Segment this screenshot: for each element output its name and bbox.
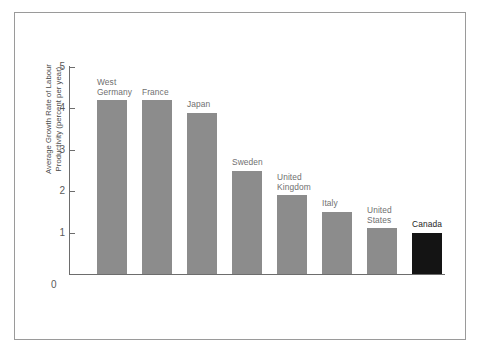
bar [142, 100, 172, 274]
bar [277, 195, 307, 274]
y-tick-label: 4 [51, 102, 65, 113]
bar-group: Canada [412, 233, 442, 274]
bar [187, 113, 217, 274]
bar-label: Japan [187, 100, 210, 110]
bar-label: Canada [412, 220, 442, 230]
bar [232, 171, 262, 275]
bar-label: Italy [322, 199, 338, 209]
y-tick-label: 2 [51, 185, 65, 196]
bar-group: United Kingdom [277, 195, 307, 274]
bar-group: Japan [187, 113, 217, 274]
bar-group: Sweden [232, 171, 262, 275]
bar-label: United States [367, 206, 392, 225]
y-tick-label-0: 0 [51, 279, 57, 290]
y-tick-label: 1 [51, 227, 65, 238]
bar [97, 100, 127, 274]
bar-group: Italy [322, 212, 352, 274]
bar [367, 228, 397, 274]
y-tick-label: 5 [51, 61, 65, 72]
y-tick-label: 3 [51, 144, 65, 155]
bar-label: West Germany [97, 78, 132, 97]
bar [412, 233, 442, 274]
bar-label: Sweden [232, 158, 263, 168]
bar-label: United Kingdom [277, 173, 311, 192]
bar [322, 212, 352, 274]
plot-area: 012345 West GermanyFranceJapanSwedenUnit… [69, 53, 445, 301]
bar-group: United States [367, 228, 397, 274]
bars-container: West GermanyFranceJapanSwedenUnited King… [70, 53, 445, 275]
bar-label: France [142, 88, 169, 98]
chart-figure: Average Growth Rate of Labour Productivi… [14, 12, 466, 340]
bar-group: West Germany [97, 100, 127, 274]
bar-group: France [142, 100, 172, 274]
